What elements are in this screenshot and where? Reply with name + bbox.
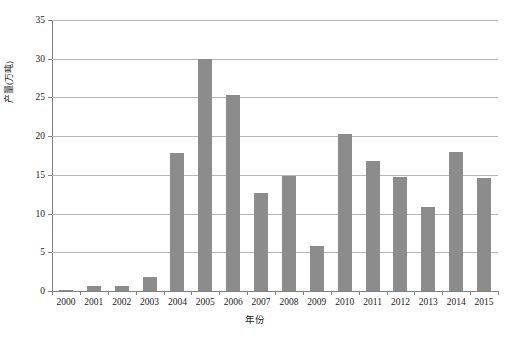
bar[interactable] bbox=[282, 176, 296, 291]
bar[interactable] bbox=[449, 152, 463, 291]
bars-group bbox=[52, 20, 498, 291]
bar[interactable] bbox=[170, 153, 184, 291]
bar[interactable] bbox=[87, 286, 101, 291]
bar[interactable] bbox=[477, 178, 491, 291]
x-tick-mark bbox=[136, 291, 137, 295]
x-tick-mark bbox=[387, 291, 388, 295]
x-tick-mark bbox=[470, 291, 471, 295]
bar[interactable] bbox=[393, 177, 407, 291]
bar[interactable] bbox=[366, 161, 380, 291]
x-axis-title: 年份 bbox=[0, 312, 510, 326]
bar[interactable] bbox=[338, 134, 352, 291]
bar[interactable] bbox=[198, 59, 212, 291]
x-tick-mark bbox=[108, 291, 109, 295]
bar[interactable] bbox=[254, 193, 268, 291]
y-tick-label: 35 bbox=[36, 15, 46, 25]
y-axis-title: 产量(万吨) bbox=[2, 32, 16, 132]
x-tick-label: 2015 bbox=[464, 297, 504, 307]
y-tick-label: 0 bbox=[40, 286, 45, 296]
x-tick-mark bbox=[275, 291, 276, 295]
x-tick-mark bbox=[303, 291, 304, 295]
x-tick-mark bbox=[331, 291, 332, 295]
bar[interactable] bbox=[115, 286, 129, 291]
x-tick-mark bbox=[52, 291, 53, 295]
y-tick-label: 15 bbox=[36, 170, 46, 180]
x-tick-mark bbox=[191, 291, 192, 295]
y-tick-label: 20 bbox=[36, 131, 46, 141]
y-tick-label: 30 bbox=[36, 54, 46, 64]
bar[interactable] bbox=[310, 246, 324, 291]
y-tick-label: 5 bbox=[40, 247, 45, 257]
x-tick-mark bbox=[442, 291, 443, 295]
x-tick-mark bbox=[247, 291, 248, 295]
x-tick-mark bbox=[219, 291, 220, 295]
x-tick-mark bbox=[414, 291, 415, 295]
y-tick-label: 25 bbox=[36, 92, 46, 102]
x-tick-mark bbox=[164, 291, 165, 295]
x-tick-mark bbox=[359, 291, 360, 295]
x-tick-mark bbox=[80, 291, 81, 295]
bar[interactable] bbox=[59, 290, 73, 291]
bar[interactable] bbox=[143, 277, 157, 291]
x-tick-mark bbox=[498, 291, 499, 295]
bar-chart: 产量(万吨) 05101520253035 200020012002200320… bbox=[0, 0, 510, 340]
bar[interactable] bbox=[421, 207, 435, 291]
bar[interactable] bbox=[226, 95, 240, 291]
y-tick-label: 10 bbox=[36, 209, 46, 219]
